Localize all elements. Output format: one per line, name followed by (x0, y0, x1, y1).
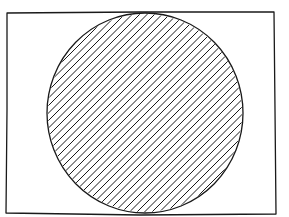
sketch-canvas (0, 0, 289, 217)
